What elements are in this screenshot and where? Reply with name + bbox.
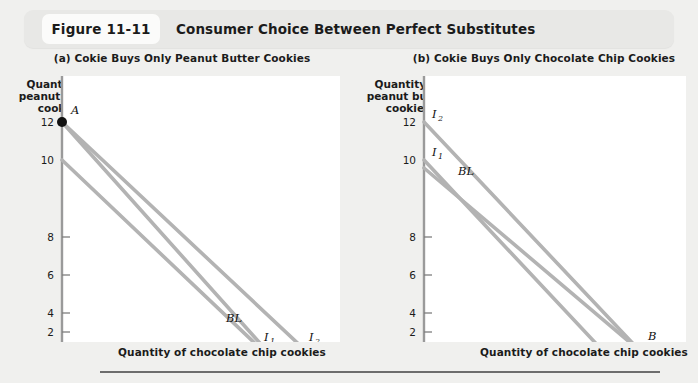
- panel-b-x-axis-label: Quantity of chocolate chip cookies: [352, 346, 698, 358]
- panel-a-ytick-label-6: 6: [47, 269, 54, 281]
- panel-a-curve-label-BL: BL: [225, 311, 242, 325]
- panel-a-ytick-label-8: 8: [47, 231, 54, 243]
- panel-b-ytick-label-4: 4: [409, 307, 416, 319]
- panel-a-x-axis-label: Quantity of chocolate chip cookies: [6, 346, 392, 358]
- figure-number-badge: Figure 11-11: [42, 14, 160, 44]
- panel-b-curve-label-I2: I: [431, 107, 437, 121]
- panel-b-curve-label-I2-sub: 2: [437, 114, 443, 123]
- panel-b-ytick-label-12: 12: [403, 116, 416, 128]
- panel-b-ytick-label-6: 6: [409, 269, 416, 281]
- panel-b-ytick-label-2: 2: [409, 326, 416, 338]
- panel-b-ytick-label-10: 10: [403, 154, 416, 166]
- panel-b-curve-label-BL: BL: [457, 164, 474, 178]
- panel-b-subtitle: (b) Cokie Buys Only Chocolate Chip Cooki…: [352, 52, 698, 64]
- panel-b-curve-label-I1: I: [431, 145, 437, 159]
- panel-a-subtitle: (a) Cokie Buys Only Peanut Butter Cookie…: [6, 52, 352, 64]
- figure-header: Figure 11-11 Consumer Choice Between Per…: [24, 10, 674, 48]
- panel-a-curve-label-I1-sub: 1: [270, 337, 275, 342]
- panel-a: (a) Cokie Buys Only Peanut Butter Cookie…: [6, 52, 346, 362]
- panel-b-curve-label-I1-sub: 1: [438, 152, 443, 161]
- panel-b: (b) Cokie Buys Only Chocolate Chip Cooki…: [352, 52, 692, 362]
- panel-a-curve-label-I2-sub: 2: [314, 337, 320, 342]
- panel-a-ytick-label-4: 4: [47, 307, 54, 319]
- panel-a-ytick-label-2: 2: [47, 326, 54, 338]
- figure-title: Consumer Choice Between Perfect Substitu…: [176, 10, 535, 48]
- panel-a-plot-background: [62, 76, 340, 342]
- panel-b-ytick-label-8: 8: [409, 231, 416, 243]
- panel-a-curve-label-I2: I: [308, 330, 314, 342]
- panel-a-point-A-marker: [57, 117, 67, 127]
- panel-b-point-B-label: B: [647, 329, 656, 342]
- bottom-divider: [100, 371, 660, 373]
- panel-a-ytick-label-12: 12: [41, 116, 54, 128]
- panel-b-plot: 12 10 8 6 4 2 0 2 4 6 8 10 12 I 2 I 1 BL…: [352, 70, 692, 342]
- panel-a-plot: 12 10 8 6 4 2 0 2 4 6 8 10 12 A BL I 1 I…: [6, 70, 346, 342]
- panel-a-curve-label-I1: I: [263, 330, 269, 342]
- panel-a-point-A-label: A: [70, 103, 79, 117]
- panel-a-ytick-label-10: 10: [41, 154, 54, 166]
